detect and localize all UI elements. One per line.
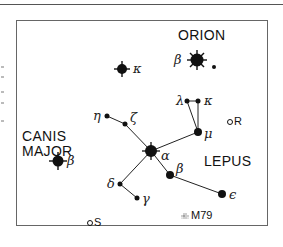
variable-star-s-marker	[88, 221, 93, 226]
star-label-orion-beta: β	[174, 53, 182, 66]
constellation-label-orion: ORION	[178, 27, 225, 43]
star-label-canis-major-beta: β	[67, 154, 75, 167]
star-label-lepus-alpha: α	[161, 149, 170, 162]
lepus-epsilon-star	[218, 190, 226, 198]
star-label-lepus-gamma: γ	[142, 192, 150, 205]
lepus-mu-star	[194, 128, 202, 136]
lepus-beta-star	[166, 171, 174, 179]
lepus-delta-star	[118, 182, 123, 187]
m79-cluster-icon	[181, 213, 188, 218]
m79-label: M79	[191, 209, 212, 221]
constellation-label-lepus: LEPUS	[204, 153, 251, 169]
lepus-zeta-star	[123, 122, 128, 127]
orion-beta-star	[187, 50, 207, 70]
star-label-lepus-epsilon: ϵ	[229, 188, 236, 201]
lepus-eta-star	[105, 114, 110, 119]
star-label-lepus-mu: μ	[204, 127, 212, 140]
star-label-lepus-kappa: κ	[204, 94, 213, 107]
lepus-kappa-star	[196, 99, 201, 104]
variable-star-r-marker	[228, 120, 233, 125]
star-label-lepus-lambda: λ	[176, 94, 184, 107]
star-label-lepus-zeta: ζ	[130, 111, 137, 124]
variable-star-s-label: S	[94, 216, 101, 228]
star-label-lepus-beta: β	[176, 162, 184, 175]
lepus-gamma-star	[135, 196, 140, 201]
orion-kappa-star	[114, 61, 130, 77]
star-label-lepus-eta: η	[93, 109, 101, 122]
constellation-label-canis-major-line2: MAJOR	[22, 143, 73, 159]
lepus-lambda-star	[185, 99, 190, 104]
star-label-orion-kappa: κ	[133, 62, 142, 75]
constellation-label-canis-major-line1: CANIS	[22, 128, 66, 144]
star-label-lepus-delta: δ	[107, 177, 115, 190]
orion-faint-star	[212, 65, 216, 69]
variable-star-r-label: R	[234, 115, 242, 127]
